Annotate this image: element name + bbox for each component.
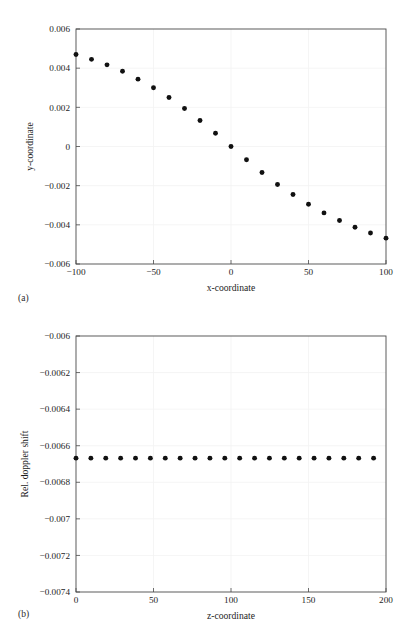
data-point <box>74 52 79 57</box>
data-point <box>252 456 257 461</box>
y-tick-label: −0.006 <box>44 331 70 341</box>
y-tick-label: 0.004 <box>49 63 70 73</box>
data-point <box>133 456 138 461</box>
x-tick-label: 100 <box>379 267 393 277</box>
x-tick-label: −50 <box>146 267 161 277</box>
scatter-plot-a: 0.0060.0040.0020−0.002−0.004−0.006−100−5… <box>0 0 413 320</box>
data-point <box>222 456 227 461</box>
data-point <box>282 456 287 461</box>
data-point <box>105 62 110 67</box>
data-point <box>229 144 234 149</box>
x-tick-label: 0 <box>229 267 234 277</box>
data-point <box>163 456 168 461</box>
x-tick-label: −100 <box>67 267 86 277</box>
x-tick-label: 50 <box>304 267 314 277</box>
figure-panel-a: 0.0060.0040.0020−0.002−0.004−0.006−100−5… <box>0 0 413 320</box>
data-point <box>120 69 125 74</box>
data-point <box>148 456 153 461</box>
data-point <box>74 456 79 461</box>
y-tick-label: −0.0066 <box>40 441 71 451</box>
x-axis-title: z-coordinate <box>207 610 255 621</box>
data-point <box>341 456 346 461</box>
data-point <box>260 170 265 175</box>
figure-panel-b: −0.006−0.0062−0.0064−0.0066−0.0068−0.007… <box>0 320 413 638</box>
data-point <box>193 456 198 461</box>
data-point <box>337 218 342 223</box>
y-tick-label: 0.002 <box>49 103 70 113</box>
y-tick-label: −0.0064 <box>40 404 71 414</box>
x-tick-label: 150 <box>302 595 316 605</box>
data-point <box>118 456 123 461</box>
data-point <box>198 118 203 123</box>
data-point <box>244 157 249 162</box>
data-point <box>371 456 376 461</box>
y-tick-label: −0.0074 <box>40 587 71 597</box>
data-point <box>384 236 389 241</box>
x-tick-label: 0 <box>74 595 79 605</box>
data-point <box>237 456 242 461</box>
y-tick-label: 0.006 <box>49 24 70 34</box>
scatter-plot-b: −0.006−0.0062−0.0064−0.0066−0.0068−0.007… <box>0 320 413 638</box>
x-tick-label: 100 <box>224 595 238 605</box>
y-tick-label: −0.0062 <box>40 368 71 378</box>
x-axis-title: x-coordinate <box>207 282 255 293</box>
data-point <box>306 202 311 207</box>
data-point <box>353 225 358 230</box>
y-tick-label: −0.0072 <box>40 551 71 561</box>
data-point <box>267 456 272 461</box>
y-tick-label: −0.007 <box>44 514 70 524</box>
data-point <box>327 456 332 461</box>
x-tick-label: 200 <box>379 595 393 605</box>
data-point <box>312 456 317 461</box>
y-tick-label: −0.0068 <box>40 477 71 487</box>
data-point <box>356 456 361 461</box>
y-tick-label: −0.002 <box>44 181 70 191</box>
y-axis-title: y-coordinate <box>24 122 35 170</box>
data-point <box>151 85 156 90</box>
panel-b-caption: (b) <box>18 609 29 619</box>
y-tick-label: −0.004 <box>44 220 70 230</box>
data-point <box>213 131 218 136</box>
data-point <box>167 95 172 100</box>
panel-a-caption: (a) <box>18 293 29 303</box>
y-tick-label: 0 <box>65 142 70 152</box>
data-point <box>322 210 327 215</box>
data-point <box>297 456 302 461</box>
data-point <box>291 192 296 197</box>
data-point <box>178 456 183 461</box>
data-series <box>74 456 377 461</box>
data-point <box>136 77 141 82</box>
data-point <box>103 456 108 461</box>
data-point <box>275 182 280 187</box>
data-point <box>368 231 373 236</box>
y-axis-title: Rel. doppler shift <box>19 430 30 497</box>
data-point <box>182 106 187 111</box>
data-point <box>207 456 212 461</box>
data-point <box>89 57 94 62</box>
data-point <box>88 456 93 461</box>
x-tick-label: 50 <box>149 595 159 605</box>
